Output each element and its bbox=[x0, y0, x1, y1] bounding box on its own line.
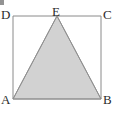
geometry-figure: D E C A B bbox=[0, 0, 115, 113]
scan-artifact-mark bbox=[0, 0, 4, 5]
shaded-triangle-AEB bbox=[13, 16, 101, 99]
vertex-label-e: E bbox=[52, 5, 60, 18]
vertex-label-c: C bbox=[103, 8, 112, 21]
vertex-label-a: A bbox=[1, 93, 10, 106]
vertex-label-d: D bbox=[1, 8, 10, 21]
vertex-label-b: B bbox=[103, 93, 112, 106]
